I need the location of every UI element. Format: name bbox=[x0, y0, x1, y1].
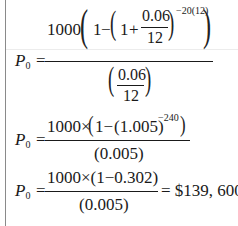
eq1-den-den: 12 bbox=[123, 88, 139, 104]
eq2-exponent: −240 bbox=[158, 113, 179, 123]
eq2-lhs: P0 bbox=[15, 131, 30, 150]
eq3-numerator: 1000×(1−0.302) bbox=[47, 169, 158, 186]
eq2-denominator: (0.005) bbox=[94, 145, 144, 162]
eq3-result: = $139, 600 bbox=[161, 182, 238, 199]
eq1-rate-den: 12 bbox=[147, 30, 163, 46]
eq1-coef: 1000 bbox=[47, 21, 81, 38]
eq1-lhs: P0 bbox=[15, 52, 30, 71]
eq2-lparen: ( bbox=[88, 112, 94, 136]
eq1-inner-rparen: ) bbox=[168, 6, 174, 40]
eq1-den-lparen: ( bbox=[108, 62, 114, 96]
eq2-num-minus: 1− bbox=[95, 118, 113, 135]
eq1-rate-fracline bbox=[141, 27, 168, 28]
eq1-main-fracline bbox=[45, 61, 213, 62]
eq1-den-fracline bbox=[117, 85, 144, 86]
eq3-denominator: (0.005) bbox=[79, 196, 129, 213]
eq1-inner-one: 1 bbox=[120, 21, 129, 38]
eq1-outer-lparen: ( bbox=[80, 4, 88, 48]
eq3-lhs: P0 bbox=[15, 182, 30, 201]
eq1-den-rparen: ) bbox=[145, 62, 151, 96]
eq2-num-base: (1.005) bbox=[114, 118, 164, 135]
eq1-outer-rparen: ) bbox=[203, 4, 211, 48]
eq2-num-coef: 1000× bbox=[47, 118, 91, 135]
eq2-fracline bbox=[45, 140, 190, 141]
eq1-rate-num: 0.06 bbox=[142, 8, 170, 24]
eq2-rparen: ) bbox=[180, 112, 186, 136]
left-margin-rule bbox=[5, 0, 6, 226]
eq1-inner-lparen: ( bbox=[110, 6, 116, 40]
eq1-plus: + bbox=[129, 21, 139, 38]
eq3-fracline bbox=[45, 191, 158, 192]
eq1-den-num: 0.06 bbox=[118, 67, 146, 83]
